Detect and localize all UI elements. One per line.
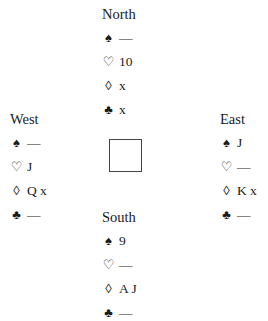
- diamond-icon: ◊: [102, 74, 115, 98]
- heart-icon: ♡: [220, 155, 233, 179]
- east-spades-cards: J: [237, 131, 242, 155]
- east-diamonds-row: ◊ K x: [220, 179, 257, 203]
- heart-icon: ♡: [10, 155, 23, 179]
- west-hand: West ♠ — ♡ J ◊ Q x ♣ —: [10, 107, 47, 227]
- table-square: [109, 139, 142, 172]
- south-spades-row: ♠ 9: [102, 229, 137, 253]
- west-spades-cards: —: [27, 131, 41, 155]
- diamond-icon: ◊: [220, 179, 233, 203]
- north-hearts-row: ♡ 10: [102, 50, 136, 74]
- west-hearts-cards: J: [27, 155, 32, 179]
- north-spades-row: ♠ —: [102, 26, 136, 50]
- heart-icon: ♡: [102, 50, 115, 74]
- east-clubs-row: ♣ —: [220, 203, 257, 227]
- west-spades-row: ♠ —: [10, 131, 47, 155]
- club-icon: ♣: [10, 203, 23, 227]
- club-icon: ♣: [220, 203, 233, 227]
- east-spades-row: ♠ J: [220, 131, 257, 155]
- club-icon: ♣: [102, 301, 115, 321]
- south-spades-cards: 9: [119, 229, 126, 253]
- south-hearts-row: ♡ —: [102, 253, 137, 277]
- south-clubs-cards: —: [119, 301, 133, 321]
- south-diamonds-row: ◊ A J: [102, 277, 137, 301]
- player-label-north: North: [102, 2, 136, 26]
- spade-icon: ♠: [220, 131, 233, 155]
- south-hand: South ♠ 9 ♡ — ◊ A J ♣ —: [102, 205, 137, 321]
- north-diamonds-cards: x: [119, 74, 126, 98]
- spade-icon: ♠: [102, 229, 115, 253]
- player-label-west: West: [10, 107, 47, 131]
- east-clubs-cards: —: [237, 203, 251, 227]
- north-diamonds-row: ◊ x: [102, 74, 136, 98]
- diamond-icon: ◊: [10, 179, 23, 203]
- north-hearts-cards: 10: [119, 50, 133, 74]
- west-hearts-row: ♡ J: [10, 155, 47, 179]
- north-hand: North ♠ — ♡ 10 ◊ x ♣ x: [102, 2, 136, 122]
- club-icon: ♣: [102, 98, 115, 122]
- player-label-east: East: [220, 107, 257, 131]
- south-hearts-cards: —: [119, 253, 133, 277]
- player-label-south: South: [102, 205, 137, 229]
- west-diamonds-cards: Q x: [27, 179, 47, 203]
- diamond-icon: ◊: [102, 277, 115, 301]
- heart-icon: ♡: [102, 253, 115, 277]
- north-spades-cards: —: [119, 26, 133, 50]
- west-diamonds-row: ◊ Q x: [10, 179, 47, 203]
- east-hearts-row: ♡ —: [220, 155, 257, 179]
- south-clubs-row: ♣ —: [102, 301, 137, 321]
- south-diamonds-cards: A J: [119, 277, 137, 301]
- west-clubs-row: ♣ —: [10, 203, 47, 227]
- north-clubs-cards: x: [119, 98, 126, 122]
- spade-icon: ♠: [102, 26, 115, 50]
- east-diamonds-cards: K x: [237, 179, 257, 203]
- east-hearts-cards: —: [237, 155, 251, 179]
- north-clubs-row: ♣ x: [102, 98, 136, 122]
- west-clubs-cards: —: [27, 203, 41, 227]
- east-hand: East ♠ J ♡ — ◊ K x ♣ —: [220, 107, 257, 227]
- spade-icon: ♠: [10, 131, 23, 155]
